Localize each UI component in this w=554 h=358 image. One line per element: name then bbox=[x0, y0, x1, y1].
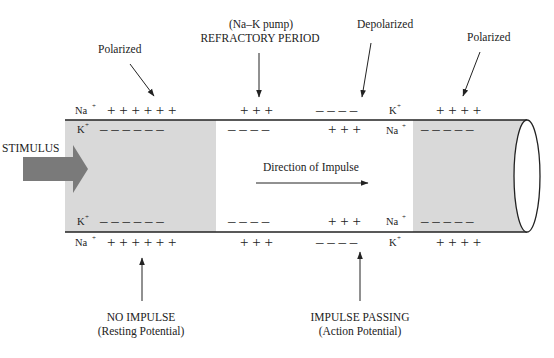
charges-resting-inside-bottom: – – – – – – bbox=[99, 213, 164, 229]
refractory-label-line2: REFRACTORY PERIOD bbox=[200, 32, 319, 44]
polarized-right-pointer-icon bbox=[463, 52, 480, 96]
svg-text:+: + bbox=[402, 122, 406, 130]
nerve-impulse-diagram: STIMULUS Direction of Impulse Polarized … bbox=[0, 0, 554, 358]
svg-text:+: + bbox=[397, 102, 401, 110]
impulse-passing-label-line2: (Action Potential) bbox=[319, 325, 402, 338]
ion-label-k-top-outside-depolarized: K + bbox=[389, 102, 401, 116]
refractory-label-line1: (Na–K pump) bbox=[229, 18, 293, 31]
axon-end-cross-section bbox=[514, 120, 540, 232]
charges-depolarized-inside-bottom: + + + bbox=[328, 213, 361, 229]
charges-resting-outside-top: + + + + + + bbox=[107, 102, 177, 118]
charges-depolarized-outside-bottom: – – – – bbox=[315, 234, 358, 250]
svg-text:+: + bbox=[85, 121, 89, 129]
svg-text:K: K bbox=[389, 105, 397, 116]
charges-refractory-outside-top: + + + bbox=[240, 102, 273, 118]
direction-label: Direction of Impulse bbox=[263, 161, 359, 174]
charges-refractory-inside-bottom: – – – – bbox=[227, 213, 270, 229]
svg-text:+: + bbox=[85, 213, 89, 221]
charges-polarized-right-inside-top: – – – – – bbox=[420, 121, 474, 137]
svg-text:+: + bbox=[402, 213, 406, 221]
polarized-right-label: Polarized bbox=[467, 31, 511, 43]
charges-resting-inside-top: – – – – – – bbox=[99, 121, 164, 137]
charges-refractory-outside-bottom: + + + bbox=[240, 234, 273, 250]
polarized-left-label: Polarized bbox=[98, 43, 142, 55]
svg-text:K: K bbox=[389, 237, 397, 248]
charges-refractory-inside-top: – – – – bbox=[227, 121, 270, 137]
charges-polarized-right-outside-top: + + + + bbox=[436, 102, 481, 118]
charges-polarized-right-outside-bottom: + + + + bbox=[436, 234, 481, 250]
depolarized-label: Depolarized bbox=[357, 18, 413, 31]
svg-text:Na: Na bbox=[75, 237, 88, 248]
charges-polarized-right-inside-bottom: – – – – – bbox=[420, 213, 474, 229]
polarized-left-pointer-icon bbox=[130, 64, 154, 96]
ion-label-na-bottom-outside: Na + bbox=[75, 234, 96, 248]
charges-resting-outside-bottom: + + + + + + bbox=[107, 234, 177, 250]
ion-label-na-top-outside: Na + bbox=[75, 102, 96, 116]
svg-text:K: K bbox=[77, 216, 85, 227]
svg-text:Na: Na bbox=[386, 216, 399, 227]
ion-label-na-top-inside-depolarized: Na + bbox=[386, 122, 406, 136]
diagram-canvas: STIMULUS Direction of Impulse Polarized … bbox=[0, 0, 554, 358]
svg-text:+: + bbox=[92, 102, 96, 110]
ion-label-k-bottom-outside-depolarized: K + bbox=[389, 234, 401, 248]
svg-text:Na: Na bbox=[75, 105, 88, 116]
no-impulse-label-line2: (Resting Potential) bbox=[98, 325, 185, 338]
svg-text:Na: Na bbox=[386, 125, 399, 136]
svg-text:K: K bbox=[77, 124, 85, 135]
impulse-passing-label-line1: IMPULSE PASSING bbox=[311, 311, 410, 323]
stimulus-label: STIMULUS bbox=[2, 142, 60, 154]
ion-label-na-bottom-inside-depolarized: Na + bbox=[386, 213, 406, 227]
charges-depolarized-outside-top: – – – – bbox=[315, 102, 358, 118]
svg-text:+: + bbox=[92, 234, 96, 242]
charges-depolarized-inside-top: + + + bbox=[328, 121, 361, 137]
depolarized-pointer-icon bbox=[362, 43, 371, 97]
no-impulse-label-line1: NO IMPULSE bbox=[107, 311, 176, 323]
svg-text:+: + bbox=[397, 234, 401, 242]
